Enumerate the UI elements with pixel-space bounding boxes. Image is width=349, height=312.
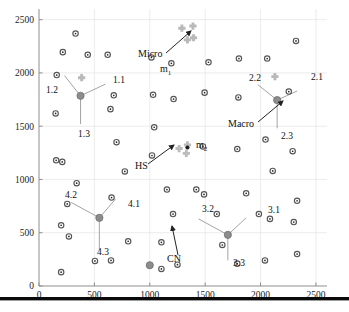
annotation-label: Macro [228, 118, 254, 129]
cn-node[interactable] [270, 168, 275, 173]
node-index-label: 3.1 [268, 205, 280, 215]
cn-node[interactable] [73, 31, 78, 36]
node-index-label: 4.3 [97, 247, 109, 257]
cn-node[interactable] [125, 239, 130, 244]
node-index-label: 3.2 [202, 204, 214, 214]
cn-node[interactable] [85, 52, 90, 57]
cn-node[interactable] [53, 158, 58, 163]
cn-node[interactable] [149, 153, 154, 158]
figure-container: 0500100015002000250005001000150020002500… [0, 0, 349, 312]
cn-node[interactable] [108, 258, 113, 263]
cn-node[interactable] [53, 111, 58, 116]
macro-node[interactable] [77, 92, 84, 99]
cn-node[interactable] [243, 191, 248, 196]
macro-node[interactable] [146, 262, 153, 269]
cn-node[interactable] [58, 223, 63, 228]
node-index-label: 4.2 [65, 190, 77, 200]
cn-node[interactable] [105, 52, 110, 57]
macro-node[interactable] [96, 214, 103, 221]
cn-node[interactable] [202, 90, 207, 95]
y-tick-label: 1000 [15, 175, 34, 185]
cn-node[interactable] [291, 219, 296, 224]
y-tick-label: 2500 [15, 15, 34, 25]
bottom-rule [0, 297, 349, 300]
cn-node[interactable] [263, 137, 268, 142]
cn-node[interactable] [66, 234, 71, 239]
y-tick-label: 2000 [15, 68, 34, 78]
cn-node[interactable] [171, 96, 176, 101]
cn-node[interactable] [150, 92, 155, 97]
cn-node[interactable] [159, 240, 164, 245]
cn-node[interactable] [201, 192, 206, 197]
cn-node[interactable] [92, 258, 97, 263]
cn-node[interactable] [114, 139, 119, 144]
cn-node[interactable] [236, 56, 241, 61]
cn-node[interactable] [294, 198, 299, 203]
cn-node[interactable] [267, 216, 272, 221]
m2-node[interactable] [185, 145, 189, 149]
node-index-label: 2.2 [249, 73, 261, 83]
cn-node[interactable] [214, 211, 219, 216]
y-tick-label: 1500 [15, 122, 34, 132]
cn-node[interactable] [286, 89, 291, 94]
cn-node[interactable] [262, 258, 267, 263]
cn-node[interactable] [109, 195, 114, 200]
node-index-label: 4.1 [128, 199, 140, 209]
cn-node[interactable] [152, 125, 157, 130]
cn-node[interactable] [170, 211, 175, 216]
cn-node[interactable] [290, 149, 295, 154]
cn-node[interactable] [74, 180, 79, 185]
cn-node[interactable] [65, 201, 70, 206]
cn-node[interactable] [236, 95, 241, 100]
node-index-label: 2.1 [311, 72, 323, 82]
cn-node[interactable] [293, 38, 298, 43]
cn-node[interactable] [264, 56, 269, 61]
node-index-label: 3.3 [233, 258, 245, 268]
node-index-label: 1.2 [46, 85, 58, 95]
cn-node[interactable] [108, 106, 113, 111]
annotation-label: HS [135, 160, 148, 171]
annotation-label: Micro [138, 48, 162, 59]
cn-node[interactable] [111, 93, 116, 98]
y-tick-label: 500 [20, 228, 35, 238]
cn-node[interactable] [294, 251, 299, 256]
macro-node[interactable] [274, 96, 281, 103]
cn-node[interactable] [235, 146, 240, 151]
cn-node[interactable] [206, 60, 211, 65]
node-index-label: 1.3 [78, 129, 90, 139]
cn-node[interactable] [256, 211, 261, 216]
cn-node[interactable] [194, 187, 199, 192]
cn-node[interactable] [122, 169, 127, 174]
cn-node[interactable] [58, 269, 63, 274]
cn-node[interactable] [60, 159, 65, 164]
cn-node[interactable] [60, 49, 65, 54]
cn-node[interactable] [169, 61, 174, 66]
annotation-label: CN [167, 253, 181, 264]
node-index-label: 1.1 [113, 75, 125, 85]
cn-node[interactable] [159, 266, 164, 271]
m2-node-layer[interactable] [185, 145, 189, 149]
scatter-plot: 0500100015002000250005001000150020002500… [0, 0, 349, 312]
node-index-label: 2.3 [281, 131, 293, 141]
cn-node[interactable] [164, 187, 169, 192]
macro-node[interactable] [224, 231, 231, 238]
y-tick-label: 0 [29, 281, 34, 291]
cn-node[interactable] [54, 72, 59, 77]
cn-node[interactable] [220, 242, 225, 247]
